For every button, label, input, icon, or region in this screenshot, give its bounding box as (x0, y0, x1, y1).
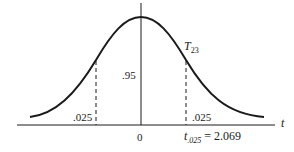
critical-value-label: t.025= 2.069 (184, 129, 241, 145)
t-distribution-diagram: T23 .95 .025 .025 0 t t.025= 2.069 (0, 0, 294, 152)
density-curve (30, 17, 264, 117)
right-tail-label: .025 (192, 111, 212, 123)
axis-zero-label: 0 (137, 131, 143, 143)
left-tail-label: .025 (73, 111, 93, 123)
distribution-label: T23 (184, 39, 199, 55)
center-area-label: .95 (122, 69, 136, 81)
axis-variable-label: t (281, 116, 285, 130)
